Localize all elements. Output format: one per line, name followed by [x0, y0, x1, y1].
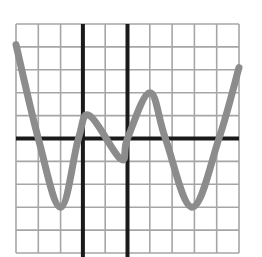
function-graph	[0, 0, 262, 257]
